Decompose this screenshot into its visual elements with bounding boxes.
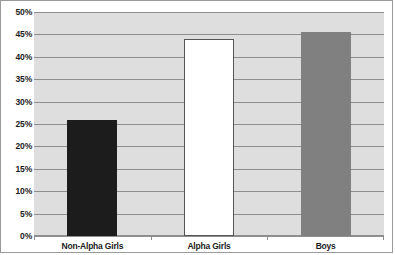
x-axis-category-label: Non-Alpha Girls [61, 241, 123, 251]
y-axis-tick-label: 45% [2, 29, 32, 39]
y-axis-tick-label: 35% [2, 74, 32, 84]
bar [67, 120, 117, 236]
y-axis-tick-label: 40% [2, 52, 32, 62]
x-axis-category-label: Boys [316, 241, 336, 251]
x-axis-tick [383, 236, 384, 240]
x-axis-category-labels: Non-Alpha GirlsAlpha GirlsBoys [34, 236, 384, 255]
x-axis-tick [267, 236, 268, 240]
y-axis-tick-label: 5% [2, 209, 32, 219]
y-axis-tick-label: 10% [2, 186, 32, 196]
y-axis-tick-label: 30% [2, 97, 32, 107]
y-axis-tick-labels: 0%5%10%15%20%25%30%35%40%45%50% [1, 12, 32, 236]
y-axis-tick-label: 15% [2, 164, 32, 174]
y-axis-tick-label: 50% [2, 7, 32, 17]
x-axis-tick [34, 236, 35, 240]
x-axis-tick [151, 236, 152, 240]
y-axis-tick-label: 25% [2, 119, 32, 129]
bar [301, 32, 351, 236]
bar [184, 39, 234, 236]
chart-frame: 0%5%10%15%20%25%30%35%40%45%50% Non-Alph… [0, 0, 393, 253]
x-axis-category-label: Alpha Girls [187, 241, 230, 251]
y-axis-tick-label: 20% [2, 141, 32, 151]
y-axis-tick-label: 0% [2, 231, 32, 241]
gridline [34, 12, 384, 13]
plot-area [34, 12, 384, 236]
